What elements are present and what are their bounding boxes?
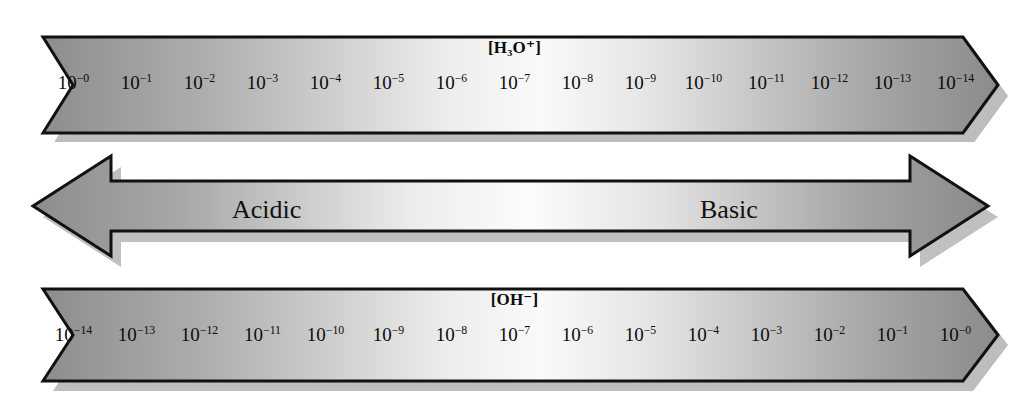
hydronium-tick-3: 10−3 xyxy=(231,72,294,94)
tick-exponent: −7 xyxy=(518,72,531,85)
hydroxide-tick-10: 10−4 xyxy=(672,324,735,346)
tick-exponent: −7 xyxy=(518,324,531,337)
tick-base: 10 xyxy=(877,324,896,345)
tick-base: 10 xyxy=(310,72,329,93)
tick-exponent: −14 xyxy=(956,72,974,85)
tick-exponent: −11 xyxy=(263,324,281,337)
tick-exponent: −1 xyxy=(896,324,909,337)
tick-base: 10 xyxy=(625,324,644,345)
hydronium-concentration-bar: [H₃O⁺] 10−010−110−210−310−410−510−610−71… xyxy=(0,26,1029,142)
tick-base: 10 xyxy=(625,72,644,93)
tick-exponent: −2 xyxy=(833,324,846,337)
ph-scale-diagram: [H₃O⁺] 10−010−110−210−310−410−510−610−71… xyxy=(0,0,1029,414)
hydroxide-tick-12: 10−2 xyxy=(798,324,861,346)
tick-exponent: −6 xyxy=(581,324,594,337)
tick-base: 10 xyxy=(688,324,707,345)
tick-exponent: −12 xyxy=(200,324,218,337)
tick-base: 10 xyxy=(937,72,956,93)
tick-exponent: −11 xyxy=(767,72,785,85)
tick-exponent: −3 xyxy=(770,324,783,337)
tick-base: 10 xyxy=(499,72,518,93)
hydronium-tick-7: 10−7 xyxy=(483,72,546,94)
hydroxide-tick-4: 10−10 xyxy=(294,324,357,346)
tick-base: 10 xyxy=(940,324,959,345)
tick-base: 10 xyxy=(184,72,203,93)
hydroxide-tick-row: 10−1410−1310−1210−1110−1010−910−810−710−… xyxy=(42,324,987,346)
hydronium-tick-12: 10−12 xyxy=(798,72,861,94)
hydroxide-tick-7: 10−7 xyxy=(483,324,546,346)
tick-base: 10 xyxy=(562,324,581,345)
tick-base: 10 xyxy=(751,324,770,345)
hydronium-tick-6: 10−6 xyxy=(420,72,483,94)
tick-base: 10 xyxy=(181,324,200,345)
hydronium-tick-row: 10−010−110−210−310−410−510−610−710−810−9… xyxy=(42,72,987,94)
hydroxide-tick-11: 10−3 xyxy=(735,324,798,346)
hydroxide-concentration-bar: [OH⁻] 10−1410−1310−1210−1110−1010−910−81… xyxy=(0,281,1029,393)
tick-exponent: −6 xyxy=(455,72,468,85)
hydroxide-tick-6: 10−8 xyxy=(420,324,483,346)
tick-exponent: −14 xyxy=(74,324,92,337)
tick-exponent: −9 xyxy=(392,324,405,337)
tick-base: 10 xyxy=(748,72,767,93)
hydroxide-tick-14: 10−0 xyxy=(924,324,987,346)
tick-base: 10 xyxy=(562,72,581,93)
tick-exponent: −12 xyxy=(830,72,848,85)
tick-exponent: −4 xyxy=(707,324,720,337)
tick-base: 10 xyxy=(55,324,74,345)
tick-exponent: −8 xyxy=(581,72,594,85)
hydroxide-tick-13: 10−1 xyxy=(861,324,924,346)
tick-base: 10 xyxy=(874,72,893,93)
tick-base: 10 xyxy=(499,324,518,345)
tick-exponent: −5 xyxy=(644,324,657,337)
tick-exponent: −0 xyxy=(959,324,972,337)
tick-exponent: −0 xyxy=(77,72,90,85)
hydronium-tick-1: 10−1 xyxy=(105,72,168,94)
tick-base: 10 xyxy=(436,72,455,93)
tick-base: 10 xyxy=(373,72,392,93)
tick-exponent: −10 xyxy=(704,72,722,85)
basic-label: Basic xyxy=(700,195,758,225)
double-arrow-shape xyxy=(0,152,1029,272)
hydronium-tick-0: 10−0 xyxy=(42,72,105,94)
hydroxide-tick-1: 10−13 xyxy=(105,324,168,346)
tick-base: 10 xyxy=(58,72,77,93)
tick-base: 10 xyxy=(118,324,137,345)
hydroxide-tick-9: 10−5 xyxy=(609,324,672,346)
tick-base: 10 xyxy=(244,324,263,345)
hydronium-tick-4: 10−4 xyxy=(294,72,357,94)
tick-base: 10 xyxy=(685,72,704,93)
tick-exponent: −13 xyxy=(893,72,911,85)
tick-exponent: −9 xyxy=(644,72,657,85)
tick-base: 10 xyxy=(247,72,266,93)
tick-base: 10 xyxy=(373,324,392,345)
hydroxide-tick-3: 10−11 xyxy=(231,324,294,346)
tick-exponent: −2 xyxy=(203,72,216,85)
tick-base: 10 xyxy=(814,324,833,345)
tick-exponent: −13 xyxy=(137,324,155,337)
acidic-basic-arrow: Acidic Basic xyxy=(0,152,1029,272)
tick-base: 10 xyxy=(811,72,830,93)
hydroxide-label: [OH⁻] xyxy=(0,289,1029,310)
hydronium-tick-13: 10−13 xyxy=(861,72,924,94)
hydronium-tick-11: 10−11 xyxy=(735,72,798,94)
hydroxide-tick-5: 10−9 xyxy=(357,324,420,346)
hydronium-tick-10: 10−10 xyxy=(672,72,735,94)
tick-base: 10 xyxy=(307,324,326,345)
hydroxide-tick-2: 10−12 xyxy=(168,324,231,346)
tick-exponent: −3 xyxy=(266,72,279,85)
hydronium-tick-8: 10−8 xyxy=(546,72,609,94)
hydroxide-tick-0: 10−14 xyxy=(42,324,105,346)
hydronium-tick-9: 10−9 xyxy=(609,72,672,94)
tick-exponent: −5 xyxy=(392,72,405,85)
tick-exponent: −8 xyxy=(455,324,468,337)
tick-base: 10 xyxy=(121,72,140,93)
hydroxide-tick-8: 10−6 xyxy=(546,324,609,346)
tick-exponent: −10 xyxy=(326,324,344,337)
hydronium-tick-14: 10−14 xyxy=(924,72,987,94)
acidic-label: Acidic xyxy=(232,195,301,225)
tick-base: 10 xyxy=(436,324,455,345)
hydronium-tick-2: 10−2 xyxy=(168,72,231,94)
hydronium-label: [H₃O⁺] xyxy=(0,37,1029,58)
tick-exponent: −4 xyxy=(329,72,342,85)
tick-exponent: −1 xyxy=(140,72,153,85)
